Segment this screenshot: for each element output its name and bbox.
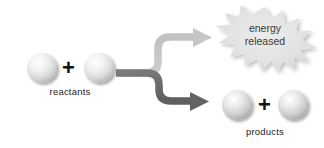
- energy-arrow-shape: [118, 28, 212, 73]
- products-label: products: [225, 126, 305, 137]
- product-sphere-1: [222, 90, 252, 120]
- product-sphere-2: [278, 90, 308, 120]
- products-arrow-shape: [116, 73, 209, 111]
- reactants-label: reactants: [20, 86, 120, 97]
- energy-released-line1: energy: [215, 22, 315, 35]
- products-plus-operator: +: [258, 94, 271, 116]
- reaction-diagram: + reactants + products energy released: [0, 0, 324, 148]
- reactant-sphere-2: [84, 53, 114, 83]
- energy-released-line2: released: [215, 35, 315, 48]
- reactant-sphere-1: [27, 53, 57, 83]
- reactants-plus-operator: +: [62, 57, 75, 79]
- energy-released-text: energy released: [215, 22, 315, 48]
